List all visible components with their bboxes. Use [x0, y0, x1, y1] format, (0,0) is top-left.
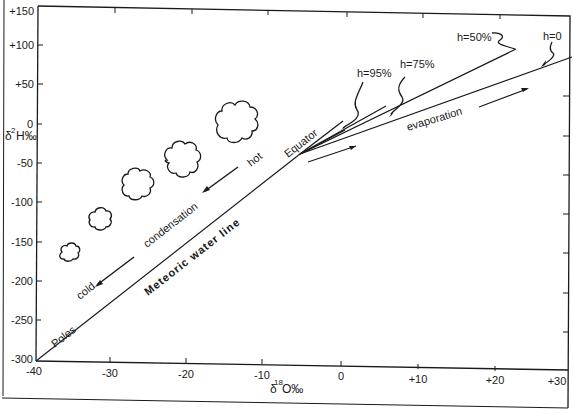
x-tick-label: -20	[178, 368, 194, 380]
x-tick-label: -10	[254, 369, 270, 381]
x-axis-ticks	[110, 357, 495, 371]
y-axis-name: H‰	[16, 129, 37, 143]
hot-label: hot	[245, 150, 264, 169]
y-tick-label: +50	[15, 78, 34, 90]
x-tick-label: -40	[26, 365, 42, 377]
diagram: +150 +100 +50 0 -50 -100 -150 -200 -250 …	[0, 0, 573, 414]
y-tick-label: -200	[11, 275, 33, 287]
cloud-icon	[89, 208, 111, 230]
h0-label: h=0	[543, 30, 562, 42]
h50-label: h=50%	[457, 31, 492, 43]
y-axis-label: δ 2 H‰	[5, 126, 37, 143]
x-tick-label: -30	[102, 367, 118, 379]
y-tick-label: -50	[17, 157, 33, 169]
condensation-label: condensation	[141, 200, 200, 250]
y-tick-label: +150	[9, 5, 34, 17]
h0-pointer	[543, 42, 554, 65]
y-tick-label: -150	[11, 236, 33, 248]
poles-label: Poles	[49, 323, 78, 350]
y-tick-label: -250	[11, 314, 33, 326]
x-tick-label: +30	[548, 375, 567, 387]
cloud-icon	[122, 168, 154, 200]
x-tick-label: 0	[338, 370, 344, 382]
y-tick-label: -300	[11, 353, 33, 365]
plot-frame	[2, 0, 570, 408]
evaporation-label: evaporation	[405, 105, 463, 133]
cold-label: cold	[74, 280, 97, 302]
h95-label: h=95%	[357, 67, 392, 79]
x-axis-label: δ 18 O‰	[270, 378, 303, 396]
cloud-icon	[165, 141, 201, 177]
h75-label: h=75%	[400, 58, 435, 70]
y-tick-label: +100	[9, 39, 34, 51]
h50-pointer	[492, 33, 515, 49]
y-tick-label: -100	[11, 196, 33, 208]
x-tick-label: +10	[409, 373, 428, 385]
evaporation-lines	[300, 49, 572, 154]
x-axis-name: O‰	[282, 382, 303, 396]
x-tick-label: +20	[486, 374, 505, 386]
cloud-icon	[215, 101, 257, 142]
cloud-icon	[60, 243, 80, 261]
y-axis-tick-labels: +150 +100 +50 0 -50 -100 -150 -200 -250 …	[9, 5, 34, 365]
